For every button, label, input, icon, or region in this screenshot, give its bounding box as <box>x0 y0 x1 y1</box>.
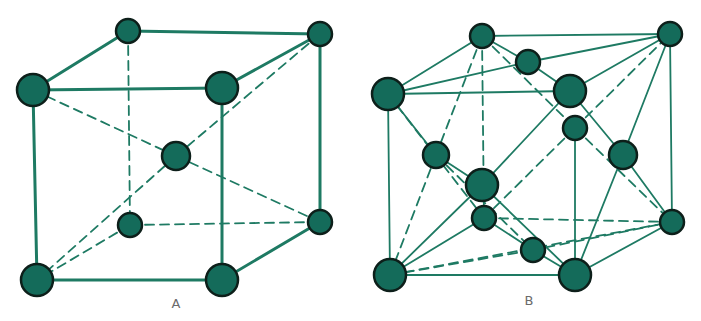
atom-btl <box>470 24 494 48</box>
atom-rightc <box>609 141 637 169</box>
bond-solid <box>388 94 390 275</box>
atom-leftc <box>423 142 449 168</box>
atom-bbl <box>118 213 142 237</box>
bond-dashed <box>33 90 176 156</box>
diagram-label-b: B <box>525 293 534 308</box>
atom-fbl <box>21 264 53 296</box>
atom-ftr <box>206 72 238 104</box>
bond-solid <box>482 34 670 36</box>
atom-c <box>162 142 190 170</box>
bcc-atoms <box>17 19 332 296</box>
bond-dashed <box>37 156 176 280</box>
bond-dashed <box>533 222 672 250</box>
bond-dashed <box>176 34 320 156</box>
bond-dashed <box>484 128 575 218</box>
bond-dashed <box>436 36 482 155</box>
atom-btr <box>308 22 332 46</box>
bcc-unit-cell-diagram: A <box>17 19 332 311</box>
bond-solid <box>623 34 670 155</box>
atom-fbl <box>374 259 406 291</box>
atom-bbr <box>308 210 332 234</box>
diagram-label-a: A <box>172 296 181 311</box>
atom-fbr <box>206 264 238 296</box>
bond-solid <box>670 34 672 222</box>
atom-btl <box>116 19 140 43</box>
bond-solid <box>33 88 222 90</box>
atom-btr <box>658 22 682 46</box>
fcc-atoms <box>372 22 684 291</box>
atom-fbr <box>559 259 591 291</box>
bond-dashed <box>176 156 320 222</box>
atom-ftl <box>17 74 49 106</box>
bond-dashed <box>390 155 436 275</box>
bond-solid <box>575 155 623 275</box>
bond-solid <box>33 90 37 280</box>
crystal-lattice-canvas: A B <box>0 0 701 321</box>
atom-rbc <box>563 116 587 140</box>
atom-backc <box>472 206 496 230</box>
bond-solid <box>388 91 570 94</box>
atom-ftr <box>554 75 586 107</box>
bond-solid <box>128 31 320 34</box>
atom-topc <box>516 50 540 74</box>
fcc-unit-cell-diagram: B <box>372 22 684 308</box>
bond-dashed <box>484 218 672 222</box>
atom-bbr <box>660 210 684 234</box>
atom-botc <box>521 238 545 262</box>
bond-solid <box>482 91 570 185</box>
bond-dashed <box>130 222 320 225</box>
bond-solid <box>388 62 528 94</box>
bond-dashed <box>128 31 130 225</box>
bond-solid <box>528 34 670 62</box>
atom-frontc <box>466 169 498 201</box>
atom-ftl <box>372 78 404 110</box>
